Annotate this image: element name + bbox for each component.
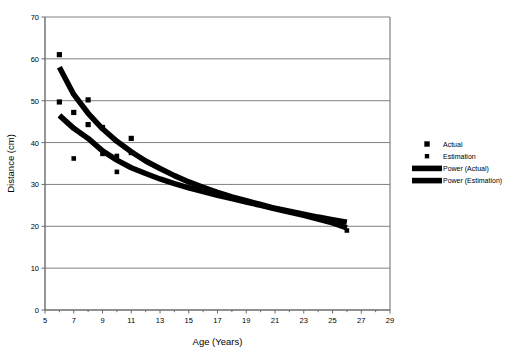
legend-marker-0 bbox=[424, 141, 429, 146]
x-axis-title: Age (Years) bbox=[193, 336, 243, 347]
x-tick-label-11: 11 bbox=[127, 316, 135, 325]
y-tick-label-40: 40 bbox=[31, 139, 39, 148]
y-tick-label-0: 0 bbox=[35, 306, 39, 315]
data-point-estimation-0 bbox=[71, 156, 76, 161]
x-tick-label-27: 27 bbox=[357, 316, 365, 325]
data-point-estimation-4 bbox=[345, 228, 350, 233]
data-point-actual-3 bbox=[86, 97, 91, 102]
data-point-actual-4 bbox=[86, 122, 91, 127]
data-point-actual-5 bbox=[100, 125, 105, 130]
legend-label-0: Actual bbox=[443, 141, 463, 148]
x-tick-label-25: 25 bbox=[328, 316, 336, 325]
y-tick-label-20: 20 bbox=[31, 222, 39, 231]
chart-figure: 57911131517192123252729 010203040506070 … bbox=[0, 0, 518, 357]
data-point-estimation-3 bbox=[115, 170, 120, 175]
x-tick-label-15: 15 bbox=[185, 316, 193, 325]
x-tick-label-9: 9 bbox=[100, 316, 104, 325]
data-point-actual-6 bbox=[129, 136, 134, 141]
legend-line-2 bbox=[412, 166, 442, 172]
legend-marker-1 bbox=[425, 154, 429, 158]
x-tick-label-29: 29 bbox=[386, 316, 394, 325]
x-tick-label-5: 5 bbox=[43, 316, 47, 325]
x-tick-label-19: 19 bbox=[242, 316, 250, 325]
data-point-actual-7 bbox=[129, 150, 134, 155]
x-tick-label-13: 13 bbox=[156, 316, 164, 325]
data-point-estimation-1 bbox=[100, 152, 105, 157]
x-tick-label-21: 21 bbox=[271, 316, 279, 325]
data-point-actual-2 bbox=[71, 110, 76, 115]
y-tick-label-70: 70 bbox=[31, 13, 39, 22]
data-point-estimation-2 bbox=[115, 154, 120, 159]
x-tick-label-23: 23 bbox=[300, 316, 308, 325]
y-tick-label-10: 10 bbox=[31, 264, 39, 273]
legend-line-3 bbox=[412, 178, 442, 184]
y-tick-label-50: 50 bbox=[31, 97, 39, 106]
data-point-actual-1 bbox=[57, 99, 62, 104]
legend-label-1: Estimation bbox=[443, 153, 476, 160]
scatter-plot-svg: 57911131517192123252729 010203040506070 … bbox=[0, 0, 518, 357]
y-axis-title: Distance (cm) bbox=[5, 134, 16, 193]
x-tick-label-17: 17 bbox=[213, 316, 221, 325]
data-point-actual-0 bbox=[57, 52, 62, 57]
y-tick-label-60: 60 bbox=[31, 55, 39, 64]
legend-label-3: Power (Estimation) bbox=[443, 177, 502, 185]
legend-label-2: Power (Actual) bbox=[443, 165, 489, 173]
y-tick-label-30: 30 bbox=[31, 180, 39, 189]
x-tick-label-7: 7 bbox=[72, 316, 76, 325]
